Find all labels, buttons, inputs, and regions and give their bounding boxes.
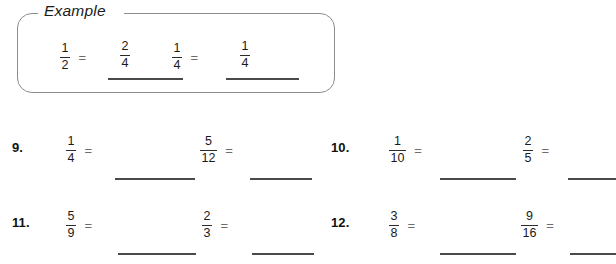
problem-11-part-2: 2 3 =: [202, 210, 232, 240]
example-problem-1-fraction: 1 2 =: [60, 42, 90, 72]
answer-blank-11b[interactable]: [252, 253, 314, 255]
answer-blank-9a[interactable]: [115, 178, 195, 180]
example-problem-1-answer: 2 4: [120, 40, 130, 70]
fraction-one-half: 1 2: [60, 42, 70, 72]
equals-sign: =: [220, 218, 228, 233]
problem-number-12: 12.: [331, 215, 349, 230]
answer-blank-10b[interactable]: [568, 178, 616, 180]
example-answer-line-2: [226, 78, 299, 80]
equals-sign: =: [84, 218, 92, 233]
fraction-one-fourth-answer: 1 4: [240, 40, 250, 70]
example-problem-2-fraction: 1 4 =: [172, 42, 202, 72]
example-problem-2-answer: 1 4: [240, 40, 250, 70]
fraction-2-3: 2 3: [202, 210, 212, 240]
problem-9-part-2: 5 12 =: [200, 135, 237, 165]
fraction-5-9: 5 9: [66, 210, 76, 240]
fraction-1-10: 1 10: [389, 135, 406, 165]
example-label: Example: [44, 2, 106, 20]
problem-11-part-1: 5 9 =: [66, 210, 96, 240]
answer-blank-12a[interactable]: [440, 253, 516, 255]
answer-blank-11a[interactable]: [118, 253, 196, 255]
fraction-5-12: 5 12: [200, 135, 217, 165]
fraction-1-4: 1 4: [66, 135, 76, 165]
fraction-9-16: 9 16: [521, 210, 538, 240]
problem-12-part-1: 3 8 =: [389, 210, 419, 240]
fraction-one-fourth: 1 4: [172, 42, 182, 72]
fraction-2-5: 2 5: [523, 135, 533, 165]
answer-blank-10a[interactable]: [440, 178, 516, 180]
problem-number-10: 10.: [331, 140, 349, 155]
equals-sign: =: [190, 50, 198, 65]
equals-sign: =: [541, 143, 549, 158]
problem-number-9: 9.: [12, 140, 23, 155]
problem-9-part-1: 1 4 =: [66, 135, 96, 165]
fraction-3-8: 3 8: [389, 210, 399, 240]
problem-10-part-1: 1 10 =: [389, 135, 426, 165]
fraction-two-fourths: 2 4: [120, 40, 130, 70]
answer-blank-9b[interactable]: [250, 178, 312, 180]
equals-sign: =: [78, 50, 86, 65]
equals-sign: =: [84, 143, 92, 158]
equals-sign: =: [414, 143, 422, 158]
problem-10-part-2: 2 5 =: [523, 135, 553, 165]
equals-sign: =: [407, 218, 415, 233]
problem-number-11: 11.: [12, 215, 30, 230]
example-answer-line-1: [108, 78, 183, 80]
equals-sign: =: [225, 143, 233, 158]
problem-12-part-2: 9 16 =: [521, 210, 558, 240]
equals-sign: =: [546, 218, 554, 233]
answer-blank-12b[interactable]: [570, 253, 616, 255]
